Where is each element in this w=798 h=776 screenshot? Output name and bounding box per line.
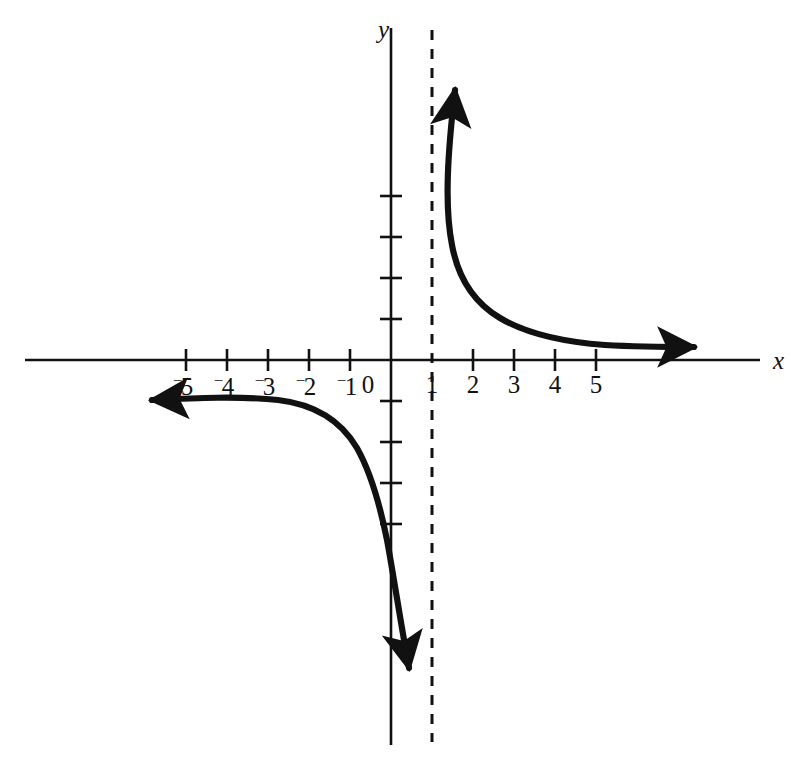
tick-digit: 3 [263,373,276,400]
x-tick-label-5: 5 [583,371,609,399]
tick-digit: 1 [345,373,358,400]
graph-figure: y x 0 −5 −4 −3 −2 −1 1 2 3 4 5 [0,0,798,776]
tick-digit: 4 [222,373,235,400]
x-tick-label-minus-1: −1 [325,371,369,401]
x-tick-label-minus-5: −5 [161,371,205,401]
tick-digit: 5 [181,373,194,400]
x-tick-label-1: 1 [419,371,445,399]
x-tick-label-minus-2: −2 [284,371,328,401]
curve-left-branch [152,398,409,668]
curve-right-branch [448,90,694,347]
x-tick-label-2: 2 [460,371,486,399]
x-tick-label-4: 4 [542,371,568,399]
x-axis-label: x [773,347,784,375]
x-tick-label-minus-3: −3 [243,371,287,401]
y-axis-label: y [378,16,389,44]
x-tick-label-3: 3 [501,371,527,399]
x-tick-label-minus-4: −4 [202,371,246,401]
tick-digit: 2 [304,373,317,400]
coordinate-plane-svg [0,0,798,776]
